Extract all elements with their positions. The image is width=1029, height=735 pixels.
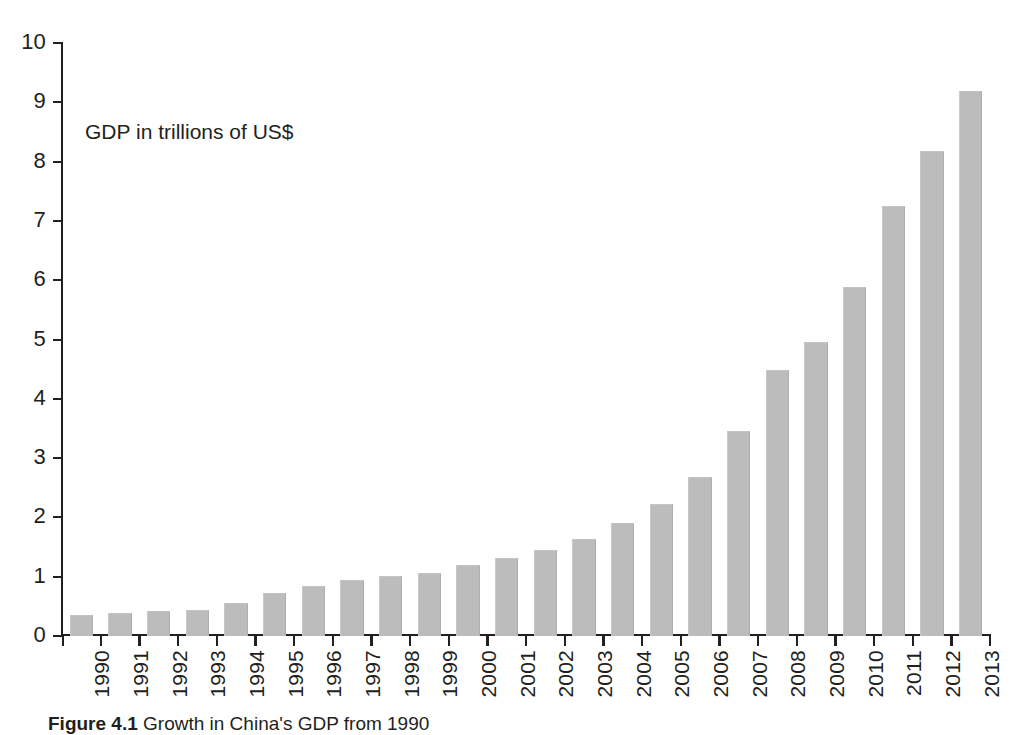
y-axis-tick: [53, 635, 62, 637]
x-axis-tick-label: 2006: [710, 650, 731, 698]
x-axis-tick-label: 1995: [285, 650, 306, 698]
x-axis-tick-label: 2007: [749, 650, 770, 698]
x-axis-labels: 1990199119921993199419951996199719981999…: [62, 0, 990, 731]
y-axis-tick: [53, 220, 62, 222]
y-axis-tick-label: 5: [0, 328, 46, 350]
x-axis-tick-label: 1998: [401, 650, 422, 698]
x-axis-tick-label: 2005: [671, 650, 692, 698]
y-axis-tick-label: 6: [0, 268, 46, 290]
y-axis-labels: 109876543210: [0, 0, 56, 731]
y-axis-tick: [53, 101, 62, 103]
y-axis-tick: [53, 279, 62, 281]
figure-caption-text: Growth in China's GDP from 1990: [143, 713, 429, 734]
x-axis-tick-label: 1996: [323, 650, 344, 698]
y-axis-tick: [53, 42, 62, 44]
x-axis-tick-label: 2009: [826, 650, 847, 698]
x-axis-tick-label: 2012: [942, 650, 963, 698]
x-axis-tick-label: 1991: [130, 650, 151, 698]
y-axis-tick: [53, 398, 62, 400]
y-axis-tick-label: 8: [0, 150, 46, 172]
x-axis-tick-label: 2008: [787, 650, 808, 698]
plot-annotation: GDP in trillions of US$: [85, 120, 294, 144]
y-axis-tick-label: 2: [0, 505, 46, 527]
x-axis-tick-label: 2011: [903, 650, 924, 696]
x-axis-tick-label: 1994: [246, 650, 267, 698]
x-axis-tick-label: 1999: [439, 650, 460, 698]
y-axis-tick: [53, 161, 62, 163]
y-axis-tick-label: 10: [0, 31, 46, 53]
x-axis-tick-label: 2004: [633, 650, 654, 698]
y-axis-tick: [53, 457, 62, 459]
figure-caption-label: Figure 4.1: [48, 713, 138, 734]
y-axis-tick-label: 9: [0, 90, 46, 112]
x-axis-tick-label: 2000: [478, 650, 499, 698]
y-axis-tick: [53, 339, 62, 341]
x-axis-tick-label: 2010: [865, 650, 886, 698]
x-axis-tick-label: 1997: [362, 650, 383, 698]
x-axis-tick-label: 1990: [91, 650, 112, 698]
y-axis-tick-label: 1: [0, 565, 46, 587]
x-axis-tick-label: 1992: [169, 650, 190, 698]
y-axis-tick-label: 0: [0, 624, 46, 646]
x-axis-tick-label: 2013: [981, 650, 1002, 698]
y-axis-tick: [53, 576, 62, 578]
x-axis-tick-label: 2002: [555, 650, 576, 698]
y-axis-tick: [53, 516, 62, 518]
figure-caption: Figure 4.1 Growth in China's GDP from 19…: [48, 712, 1008, 735]
x-axis-tick-label: 2001: [517, 650, 538, 698]
y-axis-tick-label: 4: [0, 387, 46, 409]
y-axis-tick-label: 3: [0, 446, 46, 468]
y-axis-tick-label: 7: [0, 209, 46, 231]
x-axis-tick-label: 1993: [207, 650, 228, 698]
x-axis-tick-label: 2003: [594, 650, 615, 698]
